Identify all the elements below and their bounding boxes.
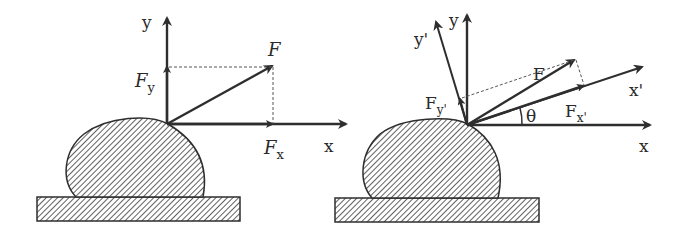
left-y-axis-label: y: [141, 12, 152, 32]
right-panel: y y' x x' F θ Fy' Fx': [335, 10, 650, 222]
right-x-axis-label: x: [639, 136, 649, 156]
left-body: [66, 118, 204, 197]
right-force-vector: [467, 60, 574, 125]
right-y-prime-label: y': [413, 29, 428, 49]
left-force-vector: [167, 66, 272, 124]
theta-arc: [520, 108, 522, 125]
left-base-plate: [37, 197, 240, 221]
right-theta-label: θ: [526, 106, 536, 126]
right-y-axis-label: y: [448, 10, 459, 30]
left-force-label: F: [267, 39, 282, 60]
right-fyp-label: Fy': [425, 93, 447, 117]
right-force-label: F: [533, 64, 545, 84]
left-fy-label: Fy: [134, 70, 156, 95]
right-dashed-to-xprime: [576, 60, 584, 85]
left-x-axis-label: x: [324, 136, 334, 156]
left-panel: y x F Fy Fx: [37, 12, 346, 221]
right-dashed-to-yprime: [462, 60, 574, 98]
force-diagram: y x F Fy Fx y y' x x' F θ Fy' Fx': [0, 0, 679, 243]
right-body: [363, 119, 500, 198]
right-base-plate: [335, 198, 539, 222]
left-fx-label: Fx: [263, 137, 285, 162]
right-fxp-label: Fx': [565, 101, 587, 125]
right-x-prime-label: x': [629, 80, 643, 100]
